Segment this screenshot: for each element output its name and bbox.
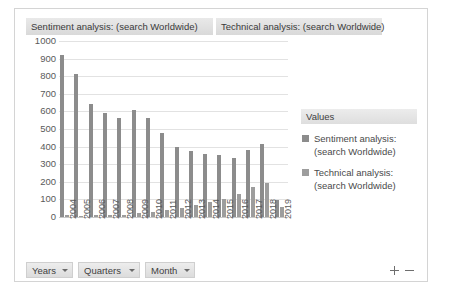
x-axis-labels: 2004200520062007200820092010201120122013… [59,219,288,261]
y-axis-tick-label: 300 [40,159,56,169]
y-axis-tick-label: 600 [40,106,56,116]
y-axis-tick-label: 900 [40,54,56,64]
chart-title-sentiment: Sentiment analysis: (search Worldwide) [26,18,213,35]
x-axis-tick-label: 2018 [259,219,270,259]
legend: Values Sentiment analysis: (search World… [301,109,417,192]
bar-group [274,41,288,217]
y-axis-tick-label: 400 [40,142,56,152]
legend-item-label: Sentiment analysis: (search Worldwide) [314,133,396,157]
y-axis-tick-label: 700 [40,89,56,99]
chart-title-technical: Technical analysis: (search Worldwide) [216,18,382,35]
bar-group [231,41,245,217]
bar-group [216,41,230,217]
bar-group [73,41,87,217]
chevron-down-icon [62,269,68,272]
legend-swatch-icon [302,135,309,142]
chevron-down-icon [184,269,190,272]
bar-group [59,41,73,217]
zoom-out-icon[interactable] [402,263,417,278]
y-axis-tick-label: 1000 [35,36,56,46]
x-axis-tick-label: 2007 [102,219,113,259]
x-axis-tick-label: 2010 [145,219,156,259]
y-axis-labels: 01002003004005006007008009001000 [26,41,56,217]
bar-group [202,41,216,217]
y-axis-tick-label: 0 [51,212,56,222]
drilldown-button-quarters[interactable]: Quarters [78,262,140,278]
drilldown-button-years[interactable]: Years [26,262,73,278]
bar-group [116,41,130,217]
bar-group [131,41,145,217]
x-axis-tick-label: 2016 [231,219,242,259]
bar-group [174,41,188,217]
bar-group [245,41,259,217]
x-axis-tick-label: 2006 [88,219,99,259]
chevron-down-icon [129,269,135,272]
x-axis-tick-label: 2011 [159,219,170,259]
bar-group [102,41,116,217]
x-axis-tick-label: 2004 [59,219,70,259]
legend-item-technical: Technical analysis: (search Worldwide) [301,167,417,192]
x-axis-tick-label: 2009 [131,219,142,259]
zoom-controls [387,262,417,278]
y-axis-tick-label: 200 [40,177,56,187]
bar-group [259,41,273,217]
y-axis-tick-label: 500 [40,124,56,134]
bar-group [88,41,102,217]
x-axis-tick-label: 2014 [202,219,213,259]
legend-swatch-icon [302,169,309,176]
drilldown-button-month[interactable]: Month [145,262,195,278]
y-axis-tick-label: 800 [40,71,56,81]
y-axis-tick-label: 100 [40,194,56,204]
bar-series-container [59,41,288,217]
bar-sentiment[interactable] [60,55,64,217]
x-axis-tick-label: 2019 [274,219,285,259]
bar-group [145,41,159,217]
screenshot-root: Sentiment analysis: (search Worldwide) T… [0,0,449,290]
x-axis-tick-label: 2015 [216,219,227,259]
plot-area: 01002003004005006007008009001000 2004200… [26,41,288,231]
chart-window: Sentiment analysis: (search Worldwide) T… [14,8,428,282]
bar-group [159,41,173,217]
legend-header: Values [301,109,417,124]
x-axis-tick-label: 2005 [73,219,84,259]
legend-item-sentiment: Sentiment analysis: (search Worldwide) [301,133,417,158]
x-axis-tick-label: 2008 [116,219,127,259]
chart-title-bar: Sentiment analysis: (search Worldwide) T… [26,18,382,35]
zoom-in-icon[interactable] [387,263,402,278]
x-axis-tick-label: 2017 [245,219,256,259]
bar-group [188,41,202,217]
x-axis-tick-label: 2012 [174,219,185,259]
bar-sentiment[interactable] [74,74,78,217]
x-axis-tick-label: 2013 [188,219,199,259]
legend-item-label: Technical analysis: (search Worldwide) [314,167,396,191]
